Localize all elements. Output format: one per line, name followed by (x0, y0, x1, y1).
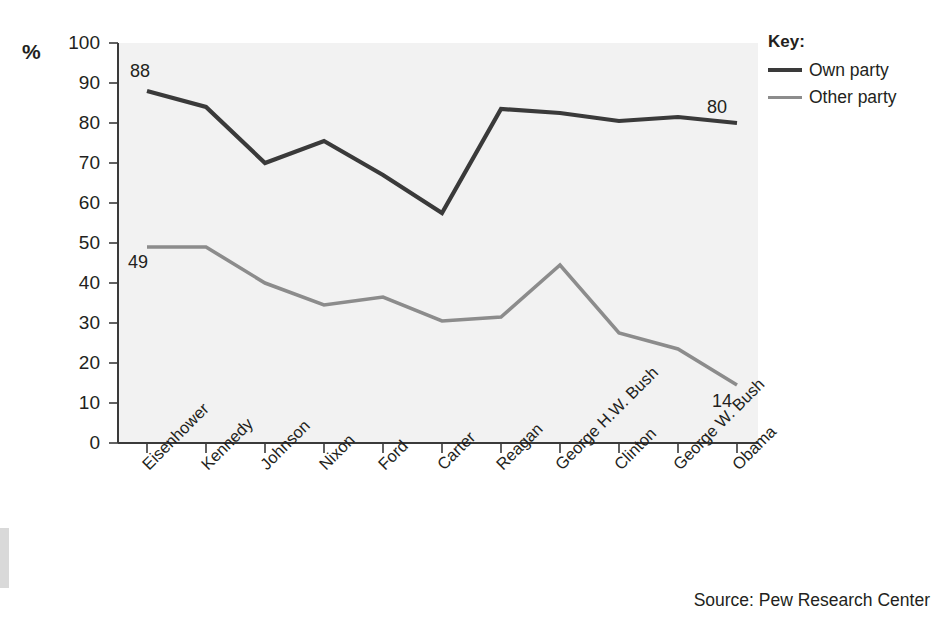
source-note: Source: Pew Research Center (694, 590, 930, 611)
legend-entry[interactable]: Own party (768, 61, 940, 79)
line-chart: % 0102030405060708090100 EisenhowerKenne… (0, 0, 942, 625)
y-axis-tick-label: 30 (60, 313, 100, 332)
y-axis-tick-label: 10 (60, 393, 100, 412)
y-axis-tick-label: 20 (60, 353, 100, 372)
y-axis-ticks (109, 43, 118, 443)
y-axis-tick-label: 80 (60, 113, 100, 132)
y-axis-tick-label: 60 (60, 193, 100, 212)
y-axis-tick-label: 40 (60, 273, 100, 292)
data-value-label: 49 (128, 253, 148, 271)
y-axis-tick-label: 90 (60, 73, 100, 92)
plot-background (118, 43, 758, 443)
legend-title: Key: (768, 32, 940, 52)
data-value-label: 80 (707, 98, 727, 116)
y-axis-tick-label: 70 (60, 153, 100, 172)
y-axis-tick-label: 100 (60, 33, 100, 52)
legend-entry-label: Own party (809, 61, 889, 79)
legend: Key: Own partyOther party (768, 32, 940, 115)
data-value-label: 88 (130, 62, 150, 80)
legend-entries: Own partyOther party (768, 61, 940, 106)
legend-color-swatch (768, 96, 802, 99)
y-axis-tick-label: 50 (60, 233, 100, 252)
y-axis-tick-label: 0 (60, 433, 100, 452)
legend-entry-label: Other party (809, 88, 897, 106)
legend-entry[interactable]: Other party (768, 88, 940, 106)
legend-color-swatch (768, 68, 802, 72)
data-value-label: 14 (712, 392, 732, 410)
